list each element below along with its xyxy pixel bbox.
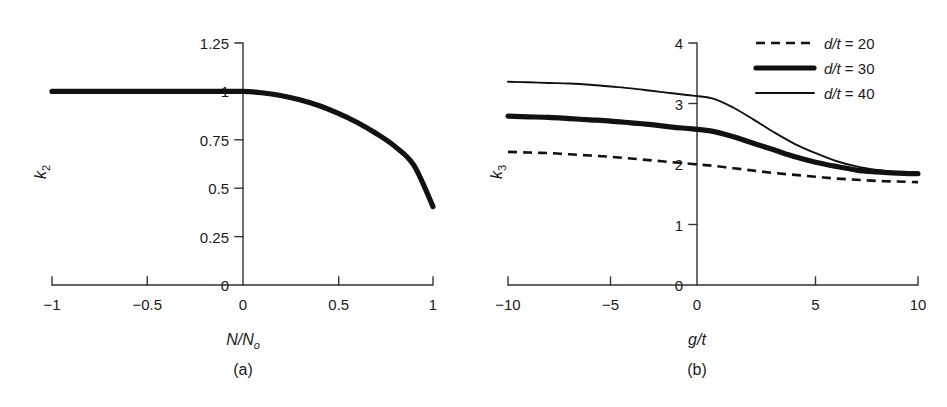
chart-b-ytick-label-4: 4 — [675, 35, 683, 52]
chart-b-ytick-label-1: 1 — [675, 217, 683, 234]
chart-a-ytick-label-0_75: 0.75 — [200, 132, 229, 149]
chart-a-xtick-label-0_5: 0.5 — [328, 296, 349, 313]
chart-b-xtick-label--5: −5 — [602, 296, 619, 313]
chart-b-caption: (b) — [687, 361, 707, 378]
chart-b-curve-dt30 — [508, 116, 918, 173]
legend-label-dt40: d/t = 40 — [824, 85, 874, 102]
chart-a-y-axis-title-sub: 2 — [40, 165, 52, 171]
figure-container: 1.25 1 0.75 0.5 0.25 0 −1 −0.5 0 0.5 1 N… — [0, 0, 947, 407]
chart-a-y-axis — [235, 43, 243, 285]
chart-a-x-axis-title-sub: o — [254, 339, 260, 351]
chart-b-xtick-label-10: 10 — [910, 296, 927, 313]
chart-panel-b: 4 3 2 1 0 −10 −5 0 5 10 g/t k3 (b) — [474, 0, 947, 407]
chart-a-xtick-label--1: −1 — [43, 296, 60, 313]
legend-label-dt20: d/t = 20 — [824, 35, 874, 52]
chart-b-ytick-label-2: 2 — [675, 156, 683, 173]
chart-a-x-axis-title: N/No — [226, 331, 260, 351]
chart-b-x-axis-title: g/t — [688, 331, 706, 348]
chart-a-x-axis-title-main: N/N — [226, 331, 254, 348]
chart-b-ytick-label-0: 0 — [675, 277, 683, 294]
chart-a-ytick-label-0_5: 0.5 — [208, 180, 229, 197]
chart-a-y-axis-title: k2 — [32, 165, 52, 179]
chart-a-ytick-label-0_25: 0.25 — [200, 229, 229, 246]
chart-b-y-axis-title-sub: 3 — [496, 165, 508, 171]
chart-b-xtick-label-5: 5 — [811, 296, 819, 313]
chart-a-ytick-label-0: 0 — [221, 277, 229, 294]
chart-a-caption: (a) — [233, 361, 253, 378]
chart-a-xtick-label-1: 1 — [429, 296, 437, 313]
chart-panel-a: 1.25 1 0.75 0.5 0.25 0 −1 −0.5 0 0.5 1 N… — [0, 0, 474, 407]
chart-b-x-axis — [508, 277, 918, 285]
chart-b-xtick-label-0: 0 — [693, 296, 701, 313]
chart-a-xtick-label--0_5: −0.5 — [132, 296, 162, 313]
chart-a-svg: 1.25 1 0.75 0.5 0.25 0 −1 −0.5 0 0.5 1 N… — [0, 0, 474, 407]
chart-b-legend: d/t = 20 d/t = 30 d/t = 40 — [756, 35, 874, 102]
legend-label-dt30: d/t = 30 — [824, 60, 874, 77]
chart-b-svg: 4 3 2 1 0 −10 −5 0 5 10 g/t k3 (b) — [474, 0, 947, 407]
chart-a-ytick-label-1_25: 1.25 — [200, 35, 229, 52]
chart-b-ytick-label-3: 3 — [675, 96, 683, 113]
chart-b-xtick-label--10: −10 — [495, 296, 520, 313]
chart-b-y-axis-title: k3 — [488, 165, 508, 179]
chart-a-xtick-label-0: 0 — [239, 296, 247, 313]
